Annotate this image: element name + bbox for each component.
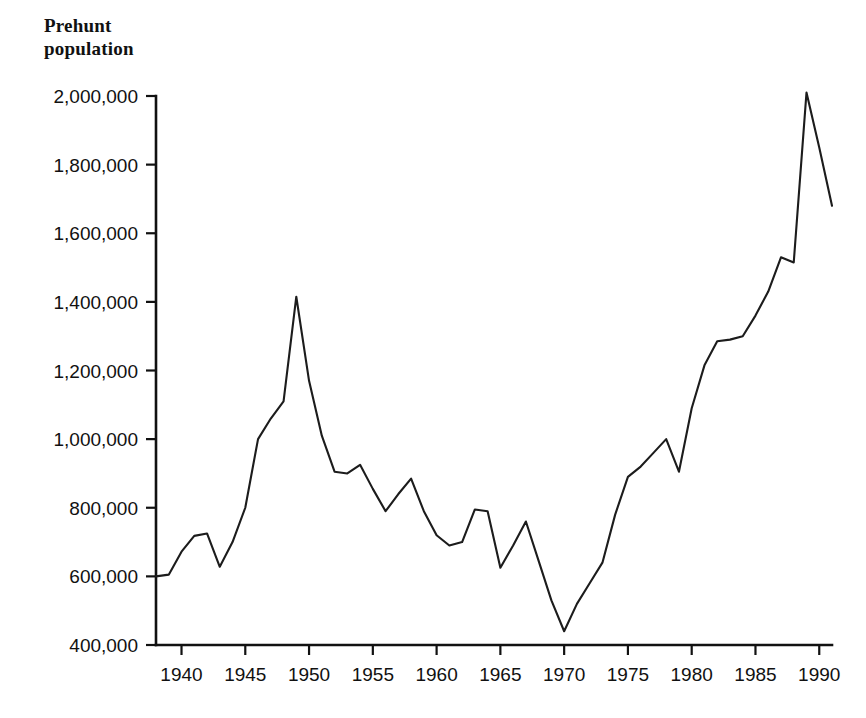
x-tick-label: 1980 xyxy=(671,664,713,685)
line-chart-svg: 400,000600,000800,0001,000,0001,200,0001… xyxy=(0,0,866,718)
y-tick-label: 1,400,000 xyxy=(53,292,138,313)
x-tick-label: 1950 xyxy=(288,664,330,685)
x-tick-label: 1970 xyxy=(543,664,585,685)
x-tick-label: 1985 xyxy=(734,664,776,685)
y-tick-label: 600,000 xyxy=(69,566,138,587)
x-tick-label: 1975 xyxy=(607,664,649,685)
y-tick-label: 800,000 xyxy=(69,498,138,519)
x-tick-label: 1965 xyxy=(479,664,521,685)
x-tick-label: 1940 xyxy=(160,664,202,685)
x-axis-tick-labels: 1940194519501955196019651970197519801985… xyxy=(160,664,840,685)
x-axis-tick-marks xyxy=(182,645,820,655)
y-tick-label: 1,000,000 xyxy=(53,429,138,450)
x-tick-label: 1955 xyxy=(352,664,394,685)
y-tick-label: 400,000 xyxy=(69,635,138,656)
y-tick-label: 1,600,000 xyxy=(53,223,138,244)
x-tick-label: 1960 xyxy=(415,664,457,685)
y-tick-label: 2,000,000 xyxy=(53,86,138,107)
y-axis-tick-marks xyxy=(146,96,156,645)
x-tick-label: 1990 xyxy=(798,664,840,685)
y-tick-label: 1,800,000 xyxy=(53,155,138,176)
data-series-line xyxy=(156,93,832,632)
chart-container: Prehunt population 400,000600,000800,000… xyxy=(0,0,866,718)
y-axis-tick-labels: 400,000600,000800,0001,000,0001,200,0001… xyxy=(53,86,138,656)
y-tick-label: 1,200,000 xyxy=(53,361,138,382)
x-tick-label: 1945 xyxy=(224,664,266,685)
